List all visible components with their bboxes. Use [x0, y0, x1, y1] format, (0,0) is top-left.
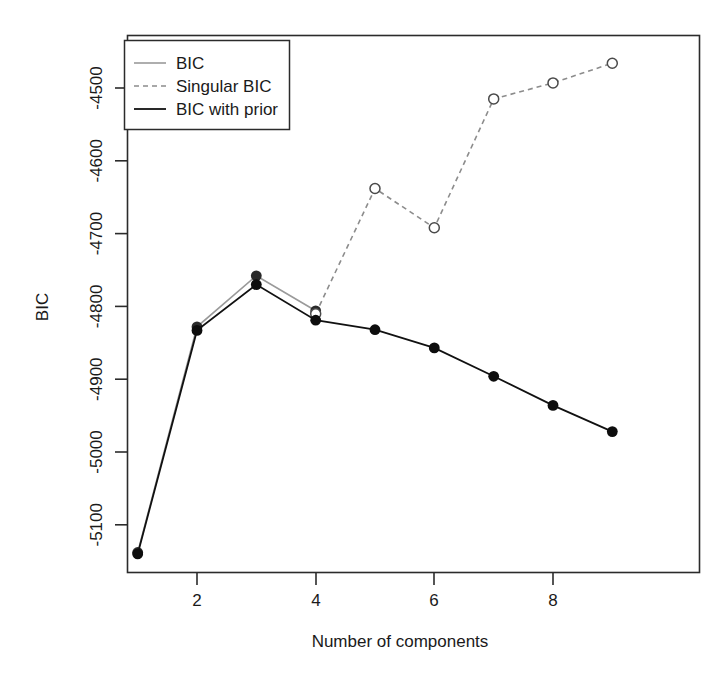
data-point-singular_bic-7 — [489, 94, 499, 104]
data-point-bic_with_prior-5 — [370, 324, 381, 335]
x-axis-ticks — [197, 573, 553, 585]
y-axis-ticks — [115, 88, 127, 525]
data-point-singular_bic-9 — [607, 58, 617, 68]
data-point-singular_bic-6 — [429, 223, 439, 233]
data-point-bic_with_prior-8 — [548, 400, 559, 411]
x-axis-title: Number of components — [312, 632, 489, 651]
bic-line-chart: -4500 -4600 -4700 -4800 -4900 -5000 -510… — [0, 0, 722, 680]
legend-label-bic-with-prior: BIC with prior — [176, 100, 278, 119]
y-tick-label-5: -5000 — [87, 430, 106, 473]
legend-label-bic: BIC — [176, 54, 204, 73]
y-tick-label-6: -5100 — [87, 503, 106, 546]
y-tick-label-2: -4700 — [87, 212, 106, 255]
x-tick-label-2: 6 — [429, 591, 438, 610]
y-tick-label-0: -4500 — [87, 66, 106, 109]
data-point-bic_with_prior-7 — [488, 371, 499, 382]
y-axis-tick-labels: -4500 -4600 -4700 -4800 -4900 -5000 -510… — [87, 66, 106, 546]
data-point-singular_bic-8 — [548, 78, 558, 88]
x-tick-label-1: 4 — [311, 591, 320, 610]
x-tick-label-3: 8 — [548, 591, 557, 610]
data-point-bic_with_prior-9 — [607, 426, 618, 437]
y-tick-label-1: -4600 — [87, 139, 106, 182]
data-point-bic_with_prior-6 — [429, 343, 440, 354]
x-tick-label-0: 2 — [192, 591, 201, 610]
y-tick-label-3: -4800 — [87, 285, 106, 328]
x-axis-tick-labels: 2 4 6 8 — [192, 591, 557, 610]
data-point-bic_with_prior-3 — [251, 279, 262, 290]
y-tick-label-4: -4900 — [87, 357, 106, 400]
data-point-singular_bic-5 — [370, 184, 380, 194]
chart-figure: -4500 -4600 -4700 -4800 -4900 -5000 -510… — [0, 0, 722, 680]
legend: BIC Singular BIC BIC with prior — [125, 41, 290, 130]
legend-label-singular-bic: Singular BIC — [176, 77, 271, 96]
y-axis-title: BIC — [33, 293, 52, 321]
data-point-bic_with_prior-1 — [132, 549, 143, 560]
data-point-bic_with_prior-2 — [192, 325, 203, 336]
data-point-bic_with_prior-4 — [310, 315, 321, 326]
